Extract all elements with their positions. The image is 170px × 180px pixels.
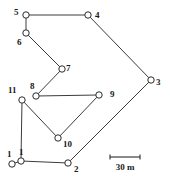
- traverse-edge: [90, 17, 149, 77]
- traverse-edge: [39, 95, 96, 96]
- station-label-9: 9: [110, 90, 115, 99]
- station-node-3[interactable]: [148, 77, 154, 83]
- traverse-figure: 11234567891011 30 m: [0, 0, 170, 180]
- station-label-11: 11: [8, 86, 17, 95]
- traverse-edge: [24, 161, 65, 163]
- station-label-1: 1: [19, 148, 24, 157]
- station-label-4: 4: [95, 11, 100, 20]
- station-node-7[interactable]: [59, 66, 65, 72]
- traverse-edge: [24, 102, 56, 135]
- station-node-2[interactable]: [65, 160, 71, 166]
- station-node-1[interactable]: [18, 158, 24, 164]
- scale-bar-label: 30 m: [110, 163, 140, 172]
- station-node-11[interactable]: [19, 97, 25, 103]
- traverse-edge: [28, 35, 59, 66]
- station-node-6[interactable]: [23, 30, 29, 36]
- station-node-10[interactable]: [55, 135, 61, 141]
- station-label-10: 10: [63, 140, 72, 149]
- station-node-5[interactable]: [23, 12, 29, 18]
- station-label-2: 2: [74, 165, 79, 174]
- station-node-9[interactable]: [96, 92, 102, 98]
- station-label-7: 7: [66, 64, 71, 73]
- station-label-1: 1: [7, 150, 12, 159]
- station-label-3: 3: [156, 78, 161, 87]
- edges-layer: [15, 15, 149, 163]
- traverse-diagram-canvas: [0, 0, 170, 180]
- station-node-8[interactable]: [33, 93, 39, 99]
- station-label-5: 5: [14, 8, 19, 17]
- traverse-edge: [38, 71, 60, 93]
- traverse-edge: [60, 97, 97, 135]
- station-label-6: 6: [17, 38, 22, 47]
- station-label-8: 8: [30, 82, 35, 91]
- station-node-4[interactable]: [85, 12, 91, 18]
- station-node-1[interactable]: [9, 161, 15, 167]
- scale-bar: [110, 155, 140, 160]
